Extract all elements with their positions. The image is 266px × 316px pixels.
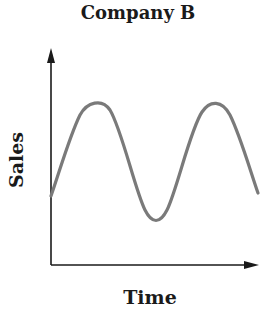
y-axis-arrow-icon — [47, 48, 55, 63]
x-axis — [51, 261, 259, 269]
sales-line — [51, 103, 258, 221]
plot-area — [0, 0, 266, 316]
x-axis-arrow-icon — [244, 261, 259, 269]
y-axis — [47, 48, 55, 265]
